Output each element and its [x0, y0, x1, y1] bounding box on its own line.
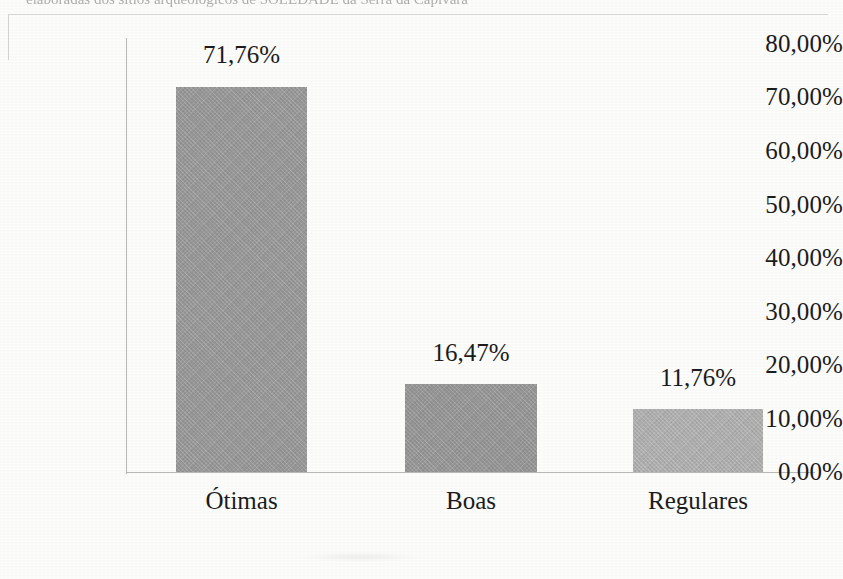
bar-otimas[interactable] — [176, 87, 307, 472]
bar-value-label-regulares: 11,76% — [613, 365, 783, 391]
y-tick-label-30: 30,00% — [731, 299, 843, 324]
bar-value-label-otimas: 71,76% — [156, 42, 327, 68]
bar-texture — [405, 384, 537, 472]
bar-texture — [633, 409, 763, 472]
bar-chart: 80,00% 70,00% 60,00% 50,00% 40,00% 30,00… — [0, 0, 843, 579]
x-category-label-boas: Boas — [385, 487, 557, 514]
y-tick-label-70: 70,00% — [731, 84, 843, 109]
x-category-label-regulares: Regulares — [613, 487, 783, 514]
bar-boas[interactable] — [405, 384, 537, 472]
scan-artifact — [300, 552, 420, 562]
bar-regulares[interactable] — [633, 409, 763, 472]
y-tick-label-80: 80,00% — [731, 31, 843, 56]
y-tick-label-50: 50,00% — [731, 192, 843, 217]
x-category-label-otimas: Ótimas — [156, 487, 327, 514]
y-tick-label-40: 40,00% — [731, 245, 843, 270]
x-axis-line — [126, 472, 815, 473]
bar-texture — [176, 87, 307, 472]
bar-value-label-boas: 16,47% — [385, 340, 557, 366]
scanned-page: elaboradas dos sítios arqueológicos de S… — [0, 0, 843, 579]
y-axis-line — [126, 38, 127, 474]
y-tick-label-60: 60,00% — [731, 138, 843, 163]
